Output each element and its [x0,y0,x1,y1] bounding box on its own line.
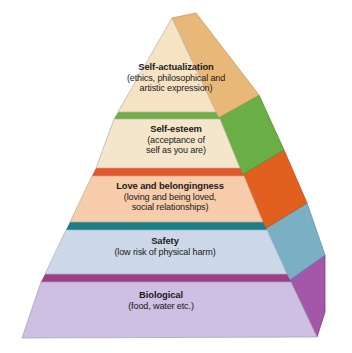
tier-detail-safety: (low risk of physical harm) [20,247,310,257]
tier-title-self-actualization: Self-actualization [36,62,316,73]
tier-detail-love: (loving and being loved, social relation… [30,192,310,212]
divider-safety-biological [41,274,291,282]
tier-title-love: Love and belongingness [30,181,310,192]
divider-self-esteem-love [92,168,244,176]
tier-detail-self-actualization: (ethics, philosophical and artistic expr… [36,73,316,93]
tier-title-safety: Safety [20,236,310,247]
maslow-pyramid-figure: Self-actualization (ethics, philosophica… [0,0,352,353]
tier-title-biological: Biological [16,290,306,301]
tier-label-self-esteem: Self-esteem (acceptance of self as you a… [56,124,296,155]
tier-label-biological: Biological (food, water etc.) [16,290,306,311]
divider-love-safety [66,222,267,230]
tier-detail-biological: (food, water etc.) [16,301,306,311]
tier-label-love: Love and belongingness (loving and being… [30,181,310,212]
tier-label-safety: Safety (low risk of physical harm) [20,236,310,257]
tier-label-self-actualization: Self-actualization (ethics, philosophica… [36,62,316,93]
tier-title-self-esteem: Self-esteem [56,124,296,135]
divider-self-actualization-self-esteem [114,112,220,119]
tier-detail-self-esteem: (acceptance of self as you are) [56,135,296,155]
